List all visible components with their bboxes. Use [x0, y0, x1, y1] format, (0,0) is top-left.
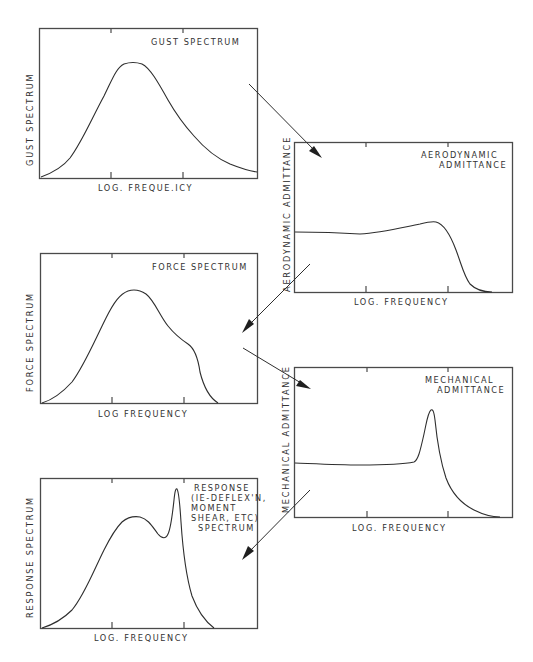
panel-title-line: SHEAR, ETC): [191, 513, 259, 523]
gust-spectrum-curve: [41, 63, 257, 178]
panel-title-line: AERODYNAMIC: [421, 150, 498, 160]
spectral-analysis-diagram: GUST SPECTRUM GUST SPECTRUM LOG. FREQUE.…: [0, 0, 533, 662]
panel-title-line: MECHANICAL: [425, 375, 494, 385]
arrowhead-icon: [309, 146, 322, 158]
force-spectrum-curve: [42, 290, 218, 403]
y-axis-label: RESPONSE SPECTRUM: [25, 496, 35, 618]
panel-frame: [40, 29, 258, 179]
mechanical-admittance-curve: [295, 410, 500, 517]
flow-arrow-aero-to-force: [242, 264, 310, 333]
flow-arrow-force-to-mech: [243, 348, 311, 389]
y-axis-label: GUST SPECTRUM: [25, 73, 35, 166]
panel-title-line: RESPONSE: [194, 483, 250, 493]
x-axis-label: LOG. FREQUENCY: [354, 297, 449, 307]
aerodynamic-admittance-curve: [295, 222, 492, 292]
x-axis-label: LOG. FREQUE.ICY: [98, 183, 193, 193]
arrow-line: [246, 264, 310, 328]
panel-title-line: ADMITTANCE: [439, 160, 507, 170]
x-axis-label: LOG FREQUENCY: [98, 409, 188, 419]
y-axis-label: MECHANICAL ADMITTANCE: [281, 365, 291, 513]
panel-mechanical-admittance: MECHANICAL ADMITTANCE MECHANICAL ADMITTA…: [281, 365, 513, 533]
panel-title-line: ADMITTANCE: [437, 385, 505, 395]
panel-title-line: SPECTRUM: [198, 523, 255, 533]
panel-gust-spectrum: GUST SPECTRUM GUST SPECTRUM LOG. FREQUE.…: [25, 28, 258, 193]
panel-aerodynamic-admittance: AERODYNAMIC ADMITTANCE AERODYNAMIC ADMIT…: [282, 136, 513, 307]
panel-title-line: MOMENT: [191, 503, 237, 513]
x-axis-label: LOG. FREQUENCY: [94, 633, 189, 643]
panel-title: GUST SPECTRUM: [151, 37, 240, 47]
panel-force-spectrum: FORCE SPECTRUM FORCE SPECTRUM LOG FREQUE…: [25, 253, 258, 419]
panel-response-spectrum: RESPONSE (IE-DEFLEX'N, MOMENT SHEAR, ETC…: [25, 478, 267, 643]
x-axis-label: LOG. FREQUENCY: [352, 523, 447, 533]
y-axis-label: FORCE SPECTRUM: [25, 292, 35, 392]
response-spectrum-curve: [42, 489, 214, 628]
y-axis-label: AERODYNAMIC ADMITTANCE: [282, 136, 292, 292]
panel-title-line: (IE-DEFLEX'N,: [191, 493, 267, 503]
panel-title: FORCE SPECTRUM: [152, 262, 248, 272]
